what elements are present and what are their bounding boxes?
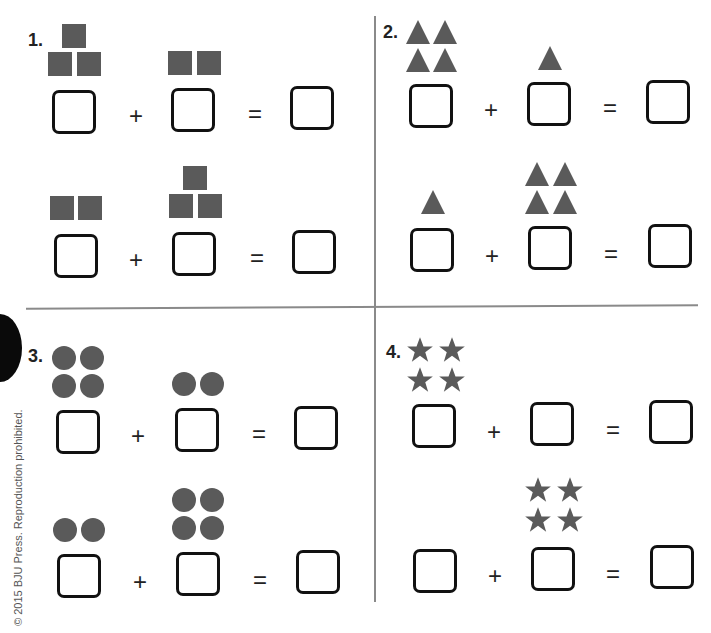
plus-sign: + <box>485 564 505 588</box>
binder-hole <box>0 314 22 382</box>
square-icon <box>169 194 193 218</box>
triangle-icon <box>421 190 445 214</box>
circle-icon <box>52 346 76 370</box>
answer-box[interactable] <box>57 554 101 598</box>
circle-icon <box>200 372 224 396</box>
plus-sign: + <box>130 570 150 594</box>
problem-number: 2. <box>383 22 398 43</box>
answer-box[interactable] <box>172 232 216 276</box>
square-icon <box>198 194 222 218</box>
triangle-icon <box>433 48 457 72</box>
answer-box[interactable] <box>54 234 98 278</box>
answer-box[interactable] <box>413 549 457 593</box>
square-icon <box>62 24 86 48</box>
answer-box[interactable] <box>648 224 692 268</box>
square-icon <box>78 196 102 220</box>
triangle-icon <box>538 46 562 70</box>
circle-icon <box>200 516 224 540</box>
equals-sign: = <box>249 422 269 446</box>
star-icon <box>406 366 434 394</box>
equals-sign: = <box>600 96 620 120</box>
star-icon <box>556 506 584 534</box>
equals-sign: = <box>250 568 270 592</box>
star-icon <box>556 476 584 504</box>
star-icon <box>438 336 466 364</box>
plus-sign: + <box>126 104 146 128</box>
circle-icon <box>172 488 196 512</box>
equals-sign: = <box>247 246 267 270</box>
square-icon <box>168 51 192 75</box>
problem-number: 1. <box>28 30 43 51</box>
answer-box[interactable] <box>294 406 338 450</box>
answer-box[interactable] <box>530 402 574 446</box>
square-icon <box>197 51 221 75</box>
vertical-divider <box>374 16 376 602</box>
circle-icon <box>53 518 77 542</box>
answer-box[interactable] <box>290 86 334 130</box>
answer-box[interactable] <box>296 550 340 594</box>
circle-icon <box>80 374 104 398</box>
star-icon <box>524 506 552 534</box>
star-icon <box>406 336 434 364</box>
answer-box[interactable] <box>527 82 571 126</box>
triangle-icon <box>553 162 577 186</box>
circle-icon <box>52 374 76 398</box>
square-icon <box>77 52 101 76</box>
answer-box[interactable] <box>292 230 336 274</box>
plus-sign: + <box>126 248 146 272</box>
triangle-icon <box>406 48 430 72</box>
triangle-icon <box>525 162 549 186</box>
problem-number: 4. <box>386 342 401 363</box>
answer-box[interactable] <box>531 547 575 591</box>
square-icon <box>48 52 72 76</box>
circle-icon <box>80 346 104 370</box>
plus-sign: + <box>484 420 504 444</box>
square-icon <box>50 196 74 220</box>
star-icon <box>524 476 552 504</box>
answer-box[interactable] <box>171 88 215 132</box>
copyright-notice: © 2015 BJU Press. Reproduction prohibite… <box>12 426 24 626</box>
problem-number: 3. <box>28 346 43 367</box>
plus-sign: + <box>128 424 148 448</box>
triangle-icon <box>433 20 457 44</box>
equals-sign: = <box>601 242 621 266</box>
plus-sign: + <box>482 244 502 268</box>
plus-sign: + <box>481 98 501 122</box>
answer-box[interactable] <box>650 545 694 589</box>
answer-box[interactable] <box>175 408 219 452</box>
circle-icon <box>200 488 224 512</box>
equals-sign: = <box>603 562 623 586</box>
triangle-icon <box>406 20 430 44</box>
answer-box[interactable] <box>646 80 690 124</box>
square-icon <box>183 166 207 190</box>
answer-box[interactable] <box>649 400 693 444</box>
answer-box[interactable] <box>52 90 96 134</box>
equals-sign: = <box>603 418 623 442</box>
answer-box[interactable] <box>409 84 453 128</box>
answer-box[interactable] <box>528 226 572 270</box>
circle-icon <box>172 516 196 540</box>
answer-box[interactable] <box>56 410 100 454</box>
answer-box[interactable] <box>412 404 456 448</box>
answer-box[interactable] <box>410 228 454 272</box>
triangle-icon <box>525 190 549 214</box>
circle-icon <box>81 518 105 542</box>
horizontal-divider <box>26 304 698 310</box>
triangle-icon <box>553 190 577 214</box>
answer-box[interactable] <box>176 552 220 596</box>
circle-icon <box>172 372 196 396</box>
equals-sign: = <box>245 102 265 126</box>
star-icon <box>438 366 466 394</box>
